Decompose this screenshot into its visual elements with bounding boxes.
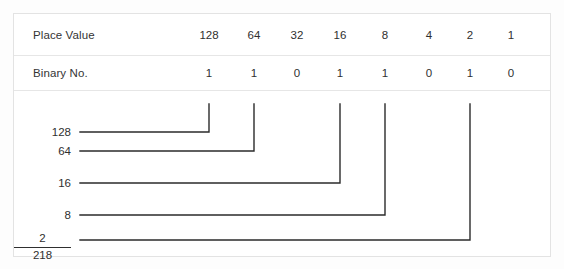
place-value-cell-4: 4	[426, 29, 432, 41]
binary-digit-bit7: 1	[206, 67, 212, 79]
row-label-binary-no: Binary No.	[33, 67, 88, 79]
place-value-table: Place Value 128 64 32 16 8 4 2 1 Binary …	[14, 14, 550, 91]
bracket-label-64: 64	[14, 145, 71, 157]
sum-total: 218	[14, 248, 71, 263]
bracket-label-128: 128	[14, 126, 71, 138]
place-value-cell-16: 16	[334, 29, 347, 41]
row-label-place-value: Place Value	[33, 29, 95, 41]
table-row: Binary No. 1 1 0 1 1 0 1 0	[14, 56, 550, 91]
sum-last-addend: 2	[14, 232, 71, 248]
binary-digit-bit3: 1	[382, 67, 388, 79]
bracket-path-2	[80, 104, 470, 240]
sum-fraction: 2 218	[14, 232, 71, 262]
screenshot-stage: Place Value 128 64 32 16 8 4 2 1 Binary …	[0, 0, 564, 269]
bracket-path-128	[80, 104, 209, 132]
bracket-lines-svg	[14, 91, 552, 258]
binary-digit-bit5: 0	[294, 67, 300, 79]
table-row: Place Value 128 64 32 16 8 4 2 1	[14, 14, 550, 56]
place-value-cell-128: 128	[199, 29, 218, 41]
place-value-cell-1: 1	[508, 29, 514, 41]
bracket-path-16	[80, 104, 340, 183]
place-value-cell-8: 8	[382, 29, 388, 41]
binary-digit-bit0: 0	[508, 67, 514, 79]
binary-digit-bit2: 0	[426, 67, 432, 79]
place-value-cell-32: 32	[291, 29, 304, 41]
binary-digit-bit4: 1	[337, 67, 343, 79]
bracket-label-16: 16	[14, 177, 71, 189]
bracket-diagram: 128 64 16 8 2 218	[14, 91, 552, 258]
binary-digit-bit6: 1	[251, 67, 257, 79]
place-value-cell-64: 64	[248, 29, 261, 41]
bracket-path-64	[80, 104, 254, 151]
place-value-cell-2: 2	[467, 29, 473, 41]
binary-digit-bit1: 1	[467, 67, 473, 79]
binary-conversion-card: Place Value 128 64 32 16 8 4 2 1 Binary …	[13, 13, 551, 257]
bracket-label-8: 8	[14, 209, 71, 221]
bracket-path-8	[80, 104, 385, 215]
